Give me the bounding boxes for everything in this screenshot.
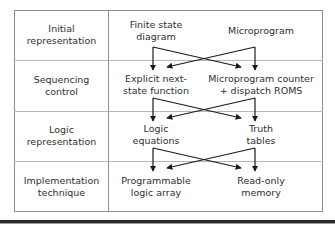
row-divider (14, 111, 323, 112)
option-read-only-memory: Read-only memory (205, 175, 317, 199)
row-label-implementation-technique: Implementation technique (15, 175, 108, 199)
row-label-line: Initial (15, 23, 108, 35)
option-line: Explicit next- (113, 73, 199, 85)
row-label-line: technique (15, 187, 108, 199)
row-label-line: Logic (15, 124, 108, 136)
option-line: Read-only (205, 175, 317, 187)
row-divider (14, 60, 323, 61)
row-label-line: representation (15, 35, 108, 47)
option-line: equations (113, 135, 199, 147)
option-logic-equations: Logic equations (113, 123, 199, 147)
option-line: + dispatch ROMS (205, 85, 317, 97)
option-line: Microprogram (205, 25, 317, 37)
option-microprogram: Microprogram (205, 25, 317, 37)
option-truth-tables: Truth tables (205, 123, 317, 147)
option-finite-state-diagram: Finite state diagram (113, 19, 199, 43)
diagram-canvas: Initial representation Sequencing contro… (0, 0, 335, 232)
option-line: tables (205, 135, 317, 147)
row-label-sequencing-control: Sequencing control (15, 74, 108, 98)
option-line: Microprogram counter (205, 73, 317, 85)
option-line: state function (113, 85, 199, 97)
option-line: Truth (205, 123, 317, 135)
row-label-line: representation (15, 136, 108, 148)
option-line: diagram (113, 31, 199, 43)
row-label-line: control (15, 86, 108, 98)
option-line: memory (205, 187, 317, 199)
row-label-line: Implementation (15, 175, 108, 187)
row-label-line: Sequencing (15, 74, 108, 86)
row-label-initial-representation: Initial representation (15, 23, 108, 47)
option-line: Finite state (113, 19, 199, 31)
option-line: logic array (113, 187, 199, 199)
row-divider (14, 161, 323, 162)
option-programmable-logic-array: Programmable logic array (113, 175, 199, 199)
option-microprogram-counter-dispatch-roms: Microprogram counter + dispatch ROMS (205, 73, 317, 97)
option-line: Programmable (113, 175, 199, 187)
option-explicit-next-state-function: Explicit next- state function (113, 73, 199, 97)
row-label-logic-representation: Logic representation (15, 124, 108, 148)
bottom-rule-shadow (0, 223, 335, 224)
option-line: Logic (113, 123, 199, 135)
